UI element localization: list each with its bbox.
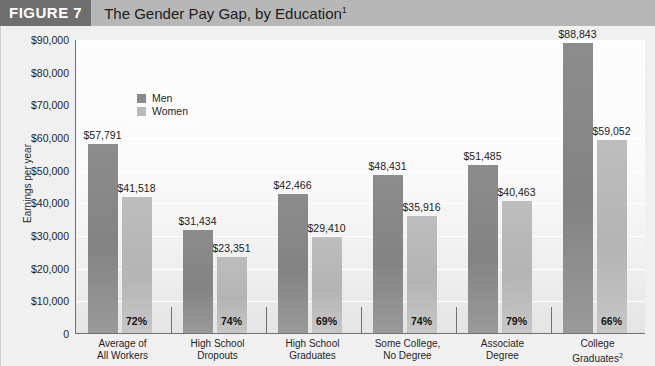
chart-plate: Earnings per year $90,000$80,000$70,000$… xyxy=(0,26,655,366)
bar-men-6 xyxy=(563,43,593,333)
y-tick-label: $40,000 xyxy=(11,197,69,209)
y-tick-label: $30,000 xyxy=(11,230,69,242)
y-tick-label: 0 xyxy=(11,328,69,340)
gridline xyxy=(76,301,645,302)
bar-men-2 xyxy=(183,230,213,333)
x-category-line: Graduates xyxy=(286,350,340,362)
figure-container: FIGURE 7 The Gender Pay Gap, by Educatio… xyxy=(0,0,655,366)
bar-value-label: $48,431 xyxy=(369,160,407,172)
x-category-line: Some College, xyxy=(375,338,441,350)
x-category-line: Dropouts xyxy=(191,350,245,362)
figure-header: FIGURE 7 The Gender Pay Gap, by Educatio… xyxy=(0,0,655,26)
y-tick-label: $70,000 xyxy=(11,99,69,111)
x-category-label: Some College,No Degree xyxy=(375,338,441,362)
gridline xyxy=(76,40,645,41)
x-category-line: All Workers xyxy=(97,350,148,362)
y-tick-label: $90,000 xyxy=(11,34,69,46)
x-category-line: High School xyxy=(286,338,340,350)
bar-value-label: $40,463 xyxy=(498,186,536,198)
bar-value-label: $51,485 xyxy=(464,150,502,162)
bar-value-label: $29,410 xyxy=(308,222,346,234)
x-category-line: Average of xyxy=(97,338,148,350)
bar-women-1 xyxy=(122,197,152,333)
gridline xyxy=(76,138,645,139)
bar-value-label: $35,916 xyxy=(403,201,441,213)
legend-swatch-women xyxy=(137,107,146,116)
figure-title: The Gender Pay Gap, by Education1 xyxy=(104,5,347,22)
bar-value-label: $57,791 xyxy=(84,129,122,141)
y-axis-tick-labels: $90,000$80,000$70,000$60,000$50,000$40,0… xyxy=(11,26,69,366)
figure-title-footnote-marker: 1 xyxy=(342,5,347,15)
bar-men-4 xyxy=(373,175,403,333)
x-category-line: College xyxy=(572,338,623,350)
pay-ratio-label: 72% xyxy=(126,315,147,327)
figure-title-text: The Gender Pay Gap, by Education xyxy=(104,5,342,22)
bar-women-6 xyxy=(597,140,627,333)
bar-men-5 xyxy=(468,165,498,333)
plot-area: $57,791$41,51872%$31,434$23,35174%$42,46… xyxy=(75,40,645,334)
gridline xyxy=(76,73,645,74)
figure-number-tag: FIGURE 7 xyxy=(0,0,91,26)
y-tick-label: $20,000 xyxy=(11,263,69,275)
bar-men-1 xyxy=(88,144,118,333)
y-tick-label: $60,000 xyxy=(11,132,69,144)
bar-women-5 xyxy=(502,201,532,333)
pay-ratio-label: 74% xyxy=(221,315,242,327)
x-axis-group-separator xyxy=(361,307,362,333)
x-category-label: Average ofAll Workers xyxy=(97,338,148,362)
y-tick-label: $10,000 xyxy=(11,295,69,307)
x-category-line: High School xyxy=(191,338,245,350)
x-category-line: Associate xyxy=(481,338,524,350)
gridline xyxy=(76,203,645,204)
gridline xyxy=(76,171,645,172)
bar-value-label: $23,351 xyxy=(213,242,251,254)
legend-label-men: Men xyxy=(152,92,172,105)
gridline xyxy=(76,236,645,237)
legend-item-men: Men xyxy=(137,92,188,105)
bar-value-label: $88,843 xyxy=(559,28,597,40)
x-category-line: Degree xyxy=(481,350,524,362)
pay-ratio-label: 79% xyxy=(506,315,527,327)
chart-legend: Men Women xyxy=(132,88,196,122)
x-category-label: CollegeGraduates2 xyxy=(572,338,623,365)
x-axis-group-separator xyxy=(551,307,552,333)
bar-men-3 xyxy=(278,194,308,333)
legend-swatch-men xyxy=(137,94,146,103)
x-category-label: High SchoolGraduates xyxy=(286,338,340,362)
x-category-line: Graduates2 xyxy=(572,350,623,365)
x-category-line: No Degree xyxy=(375,350,441,362)
pay-ratio-label: 69% xyxy=(316,315,337,327)
y-tick-label: $50,000 xyxy=(11,165,69,177)
x-category-label: High SchoolDropouts xyxy=(191,338,245,362)
legend-item-women: Women xyxy=(137,105,188,118)
bar-value-label: $42,466 xyxy=(274,179,312,191)
x-axis-group-separator xyxy=(266,307,267,333)
x-category-label: AssociateDegree xyxy=(481,338,524,362)
y-tick-label: $80,000 xyxy=(11,67,69,79)
bar-value-label: $41,518 xyxy=(118,182,156,194)
pay-ratio-label: 66% xyxy=(601,315,622,327)
bar-value-label: $31,434 xyxy=(179,215,217,227)
x-axis-group-separator xyxy=(171,307,172,333)
pay-ratio-label: 74% xyxy=(411,315,432,327)
legend-label-women: Women xyxy=(152,105,188,118)
bar-value-label: $59,052 xyxy=(593,125,631,137)
x-category-footnote-marker: 2 xyxy=(619,352,623,359)
gridline xyxy=(76,269,645,270)
x-axis-group-separator xyxy=(456,307,457,333)
